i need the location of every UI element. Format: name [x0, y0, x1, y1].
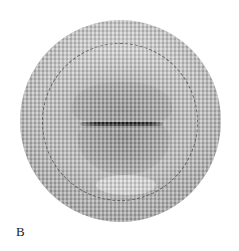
panel-label: B: [16, 225, 25, 238]
figure-panel: B: [0, 0, 239, 251]
dashed-circle-outline: [42, 43, 198, 201]
